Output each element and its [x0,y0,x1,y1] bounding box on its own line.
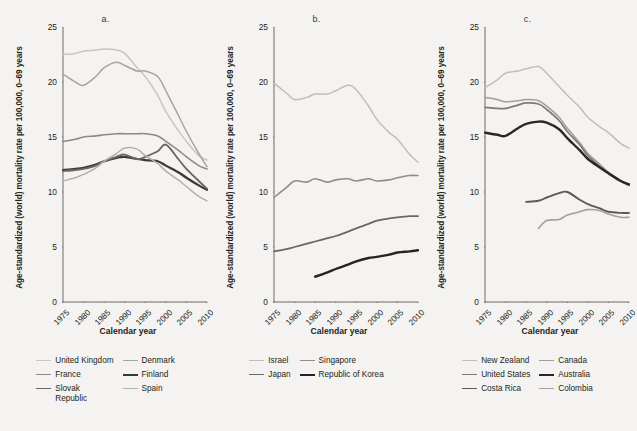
legend-color-swatch [36,374,51,375]
series-line [274,175,418,197]
x-tick-label: 1990 [325,308,344,327]
legend-color-swatch [123,374,138,376]
legend-item-label: Spain [142,384,163,394]
panel-c-plot-area: 0510152025197519801985199019952000200520… [484,27,628,302]
panel-c-label: c. [422,14,633,24]
y-tick-label: 0 [474,297,479,307]
panel-a-plot-area: 0510152025197519801985199019952000200520… [62,27,206,302]
legend-item-label: Colombia [558,384,593,394]
series-line [63,134,207,169]
legend-item-label: Slovak Republic [55,384,87,404]
legend-color-swatch [249,374,264,375]
x-tick-label: 1980 [495,308,514,327]
legend-color-swatch [539,388,554,389]
series-line [63,62,207,167]
y-tick-label: 10 [470,187,479,197]
legend-item[interactable]: Slovak Republic [36,384,113,404]
legend-item[interactable]: Israel [249,356,290,366]
series-line [274,216,418,251]
legend-color-swatch [462,388,477,389]
panel-b-legend: IsraelSingaporeJapanRepublic of Korea [211,356,422,380]
legend-item[interactable]: Australia [539,370,593,380]
legend-item[interactable]: Canada [539,356,593,366]
panel-a-x-axis-label: Calendar year [48,326,208,336]
legend-item[interactable]: Japan [249,370,290,380]
y-tick-label: 0 [263,297,268,307]
panel-b-x-axis-label: Calendar year [259,326,419,336]
y-tick-label: 15 [48,132,57,142]
legend-item-label: Costa Rica [481,384,521,394]
legend-item[interactable]: France [36,370,113,380]
x-tick-label: 1995 [556,308,575,327]
legend-color-swatch [123,388,138,389]
x-tick-label: 1990 [114,308,133,327]
plot-canvas [484,27,630,303]
x-tick-label: 1995 [134,308,153,327]
legend-item[interactable]: Colombia [539,384,593,394]
y-tick-label: 25 [259,22,268,32]
y-tick-label: 20 [470,77,479,87]
x-tick-label: 2000 [366,308,385,327]
panel-c: c. Age-standardized (world) mortality ra… [422,0,633,431]
series-line [315,250,418,276]
axis-lines [485,27,629,302]
y-tick-label: 15 [259,132,268,142]
x-tick-label: 1995 [345,308,364,327]
x-tick-label: 1980 [73,308,92,327]
legend-item-label: Japan [268,370,290,380]
legend-item-label: Singapore [319,356,356,366]
y-tick-label: 10 [259,187,268,197]
legend-item[interactable]: Costa Rica [462,384,530,394]
series-line [526,192,629,213]
x-tick-label: 1985 [304,308,323,327]
legend-item[interactable]: United States [462,370,530,380]
panel-a-y-axis-label: Age-standardized (world) mortality rate … [14,30,28,305]
legend-item[interactable]: United Kingdom [36,356,113,366]
y-tick-label: 20 [259,77,268,87]
legend-color-swatch [36,360,51,361]
legend-item-label: United States [481,370,530,380]
y-tick-label: 20 [48,77,57,87]
x-tick-label: 2000 [577,308,596,327]
panel-a-label: a. [0,14,211,24]
x-tick-label: 2005 [176,308,195,327]
x-tick-label: 1990 [536,308,555,327]
panel-c-legend: New ZealandCanadaUnited StatesAustraliaC… [422,356,633,394]
legend-item-label: New Zealand [481,356,529,366]
x-tick-label: 2000 [155,308,174,327]
legend-item-label: United Kingdom [55,356,113,366]
legend-item[interactable]: Singapore [300,356,384,366]
x-tick-label: 1975 [263,308,282,327]
legend-item-label: Canada [558,356,587,366]
legend-item[interactable]: Denmark [123,356,175,366]
y-tick-label: 5 [474,242,479,252]
legend-color-swatch [36,388,51,389]
y-tick-label: 5 [52,242,57,252]
legend-color-swatch [462,374,477,375]
x-tick-label: 2005 [387,308,406,327]
y-tick-label: 25 [48,22,57,32]
series-line [274,83,418,162]
panel-b-plot-area: 0510152025197519801985199019952000200520… [273,27,417,302]
legend-color-swatch [462,360,477,361]
legend-item-label: Denmark [142,356,175,366]
legend-item[interactable]: Spain [123,384,175,404]
x-tick-label: 2005 [598,308,617,327]
legend-color-swatch [249,360,264,361]
legend-item-label: France [55,370,80,380]
y-tick-label: 5 [263,242,268,252]
legend-item[interactable]: New Zealand [462,356,530,366]
legend-color-swatch [300,360,315,361]
panel-a-legend: United KingdomDenmarkFranceFinlandSlovak… [0,356,211,404]
legend-item-label: Republic of Korea [319,370,384,380]
y-tick-label: 25 [470,22,479,32]
legend-item[interactable]: Finland [123,370,175,380]
panel-a: a. Age-standardized (world) mortality ra… [0,0,211,431]
legend-item[interactable]: Republic of Korea [300,370,384,380]
axis-lines [274,27,418,302]
panel-b-label: b. [211,14,422,24]
plot-canvas [62,27,208,303]
legend-item-label: Australia [558,370,590,380]
legend-color-swatch [539,374,554,376]
